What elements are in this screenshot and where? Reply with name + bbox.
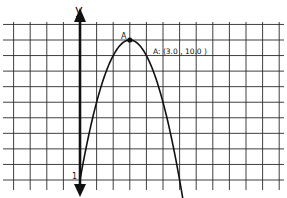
- grid-lines: [3, 22, 284, 190]
- y-tick-label-1: 1: [72, 172, 77, 181]
- parabola-curve: [80, 40, 183, 198]
- parabola-chart: y 1 A A: (3.0 , 10.0 ): [0, 0, 287, 198]
- point-a-name: A: [121, 32, 127, 41]
- y-axis-down-arrow-icon: [74, 184, 86, 197]
- y-axis-label: y: [75, 2, 83, 17]
- point-a-marker: [127, 37, 132, 42]
- point-a-coordinates: A: (3.0 , 10.0 ): [153, 47, 207, 56]
